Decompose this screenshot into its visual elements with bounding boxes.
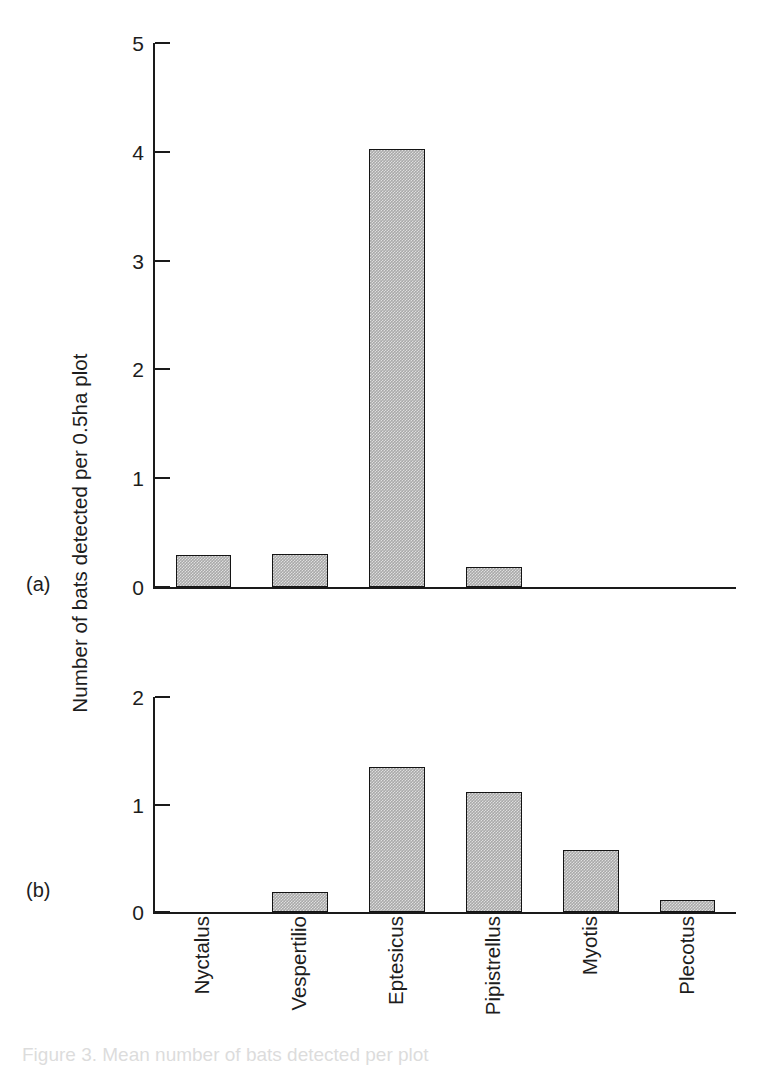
panel-a-y-tick-label-4: 4 (132, 141, 144, 162)
panel-a-plot-area (155, 43, 736, 587)
bar-myotis (563, 850, 619, 912)
panel-b-y-tick-2 (155, 696, 170, 698)
panel-b-x-axis-line (153, 912, 736, 914)
panel-a-y-tick-label-2: 2 (132, 359, 144, 380)
x-label-myotis: Myotis (578, 916, 602, 975)
x-label-pipistrellus: Pipistrellus (481, 916, 505, 1015)
bar-plecotus (660, 900, 716, 912)
chart-panel-a: 012345 (153, 43, 736, 589)
panel-a-y-tick-1 (155, 477, 170, 479)
panel-b-y-tick-label-2: 2 (132, 687, 144, 708)
panel-a-y-tick-3 (155, 260, 170, 262)
x-axis-category-labels: NyctalusVespertilioEptesicusPipistrellus… (153, 916, 736, 1036)
x-label-vespertilio: Vespertilio (287, 916, 311, 1011)
bar-eptesicus (369, 149, 425, 587)
panel-b-y-tick-label-0: 0 (132, 902, 144, 923)
panel-a-y-tick-label-0: 0 (132, 577, 144, 598)
bar-vespertilio (272, 892, 328, 912)
panel-a-letter: (a) (26, 573, 50, 596)
x-label-slot-plecotus: Plecotus (639, 916, 736, 1036)
panel-a-y-tick-2 (155, 368, 170, 370)
panel-b-y-tick-label-1: 1 (132, 794, 144, 815)
chart-panel-b: 012 (153, 697, 736, 914)
panel-b-y-tick-1 (155, 804, 170, 806)
panel-a-y-tick-5 (155, 42, 170, 44)
panel-a-y-tick-0 (155, 586, 170, 588)
x-label-slot-eptesicus: Eptesicus (347, 916, 444, 1036)
panel-a-x-axis-line (153, 587, 736, 589)
panel-a-y-tick-label-1: 1 (132, 468, 144, 489)
panel-b-plot-area (155, 697, 736, 912)
x-label-plecotus: Plecotus (675, 916, 699, 995)
bar-pipistrellus (466, 792, 522, 912)
bar-vespertilio (272, 554, 328, 587)
panel-b-y-tick-0 (155, 911, 170, 913)
panel-b-letter: (b) (26, 879, 50, 902)
x-label-slot-pipistrellus: Pipistrellus (445, 916, 542, 1036)
panel-a-y-tick-label-3: 3 (132, 250, 144, 271)
x-label-eptesicus: Eptesicus (384, 916, 408, 1005)
figure-caption-clipped: Figure 3. Mean number of bats detected p… (22, 1044, 742, 1066)
panel-a-y-tick-4 (155, 151, 170, 153)
panel-a-y-tick-label-5: 5 (132, 33, 144, 54)
y-axis-title: Number of bats detected per 0.5ha plot (68, 303, 92, 763)
x-label-slot-myotis: Myotis (542, 916, 639, 1036)
bar-eptesicus (369, 767, 425, 912)
bar-pipistrellus (466, 567, 522, 587)
x-label-slot-vespertilio: Vespertilio (250, 916, 347, 1036)
x-label-slot-nyctalus: Nyctalus (153, 916, 250, 1036)
x-label-nyctalus: Nyctalus (190, 916, 214, 995)
bar-nyctalus (176, 555, 232, 587)
